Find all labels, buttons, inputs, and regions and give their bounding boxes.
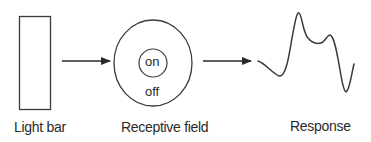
receptive-field-label: Receptive field xyxy=(121,119,208,135)
response-waveform xyxy=(258,13,354,92)
response-label: Response xyxy=(290,118,351,134)
surround-label-off: off xyxy=(145,84,159,99)
light-bar-shape xyxy=(20,17,51,110)
diagram-canvas: on off Light bar Receptive field Respons… xyxy=(0,0,371,142)
light-bar-label: Light bar xyxy=(14,119,66,135)
center-label-on: on xyxy=(145,54,159,69)
